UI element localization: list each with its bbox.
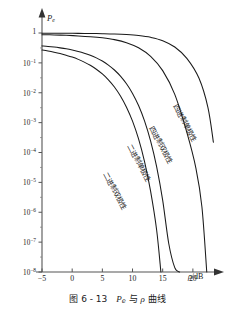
x-axis-arrowhead — [214, 268, 224, 275]
caption-middle: 与 — [129, 294, 138, 304]
x-tick-label: 15 — [153, 274, 173, 283]
caption-prefix: 图 — [69, 294, 78, 304]
y-axis-title: Pe — [47, 13, 55, 23]
data-curve — [42, 46, 180, 272]
y-tick-label: 1 — [0, 28, 36, 36]
figure-caption: 图 6 - 13Pe 与 ρ 曲线 — [0, 292, 235, 305]
y-tick-label: 10−7 — [0, 237, 36, 247]
y-tick-label: 10−1 — [0, 58, 36, 68]
x-tick-label: 0 — [62, 274, 82, 283]
caption-suffix: 曲线 — [148, 294, 166, 304]
x-tick-label: 20 — [183, 274, 203, 283]
y-tick-label: 10−3 — [0, 117, 36, 127]
y-axis-title-subscript: e — [52, 17, 55, 23]
x-tick-label: 10 — [123, 274, 143, 283]
data-curve — [42, 35, 207, 272]
y-tick-label: 10−6 — [0, 207, 36, 217]
y-axis-arrowhead — [39, 8, 46, 18]
y-tick-label: 10−4 — [0, 147, 36, 157]
caption-rho: ρ — [141, 294, 145, 304]
x-tick-label: 5 — [92, 274, 112, 283]
y-tick-label: 10−2 — [0, 88, 36, 98]
caption-number: 6 - 13 — [81, 294, 107, 304]
figure-container: Pe ρ/dB 110−110−210−310−410−510−610−710−… — [0, 0, 235, 319]
caption-symbol-sub: e — [122, 297, 126, 305]
x-tick-label: −5 — [32, 274, 52, 283]
y-tick-label: 10−5 — [0, 177, 36, 187]
y-tick-label: 10−8 — [0, 267, 36, 277]
